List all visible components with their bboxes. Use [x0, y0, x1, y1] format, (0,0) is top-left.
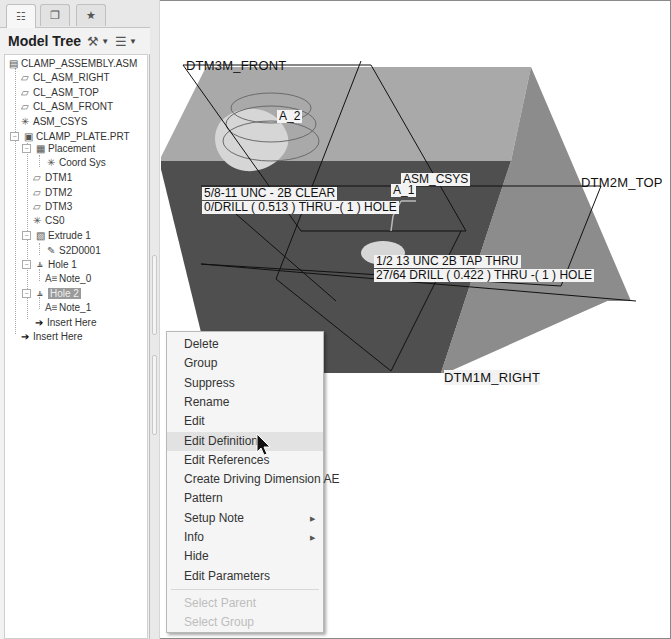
menu-item-label: Suppress: [184, 376, 235, 390]
tree-item-label: ASM_CSYS: [33, 116, 87, 127]
menu-item-select-group[interactable]: Select Group: [167, 613, 323, 632]
splitter-handle[interactable]: [152, 355, 157, 435]
datum-plane-icon: ▱: [19, 87, 31, 98]
model-tree-header: Model Tree ⚒ ▼ ☰ ▼: [0, 28, 150, 54]
tree-item-label: Note_0: [59, 273, 91, 284]
tree-item-asm-csys[interactable]: ✳ ASM_CSYS: [19, 114, 87, 128]
tree-item-placement[interactable]: − ▦ Placement: [22, 141, 95, 155]
tree-item-insert-here-part[interactable]: ➔ Insert Here: [33, 315, 96, 329]
navigator-panel: ☷ ❐ ★ Model Tree ⚒ ▼ ☰ ▼ ▤ CLAMP_ASSEMBL…: [0, 0, 150, 639]
menu-item-suppress[interactable]: Suppress: [167, 374, 323, 393]
datum-label-right[interactable]: DTM1M_RIGHT: [444, 370, 540, 385]
tree-item-dtm1[interactable]: ▱ DTM1: [31, 170, 72, 184]
hole-2-note-line-1[interactable]: 1/2 13 UNC 2B TAP THRU: [374, 255, 521, 268]
menu-item-hide[interactable]: Hide: [167, 547, 323, 566]
menu-item-edit-references[interactable]: Edit References: [167, 451, 323, 470]
note-icon: A≡: [45, 273, 57, 284]
collapse-toggle[interactable]: −: [22, 144, 31, 153]
menu-item-label: Select Group: [184, 615, 254, 629]
tree-item-note-0[interactable]: A≡ Note_0: [45, 271, 91, 285]
hole-1-note-line-2[interactable]: 0/DRILL ( 0.513 ) THRU -( 1 ) HOLE: [202, 201, 399, 214]
tree-item-label: Insert Here: [33, 331, 82, 342]
tree-item-hole-2[interactable]: − ⫨ Hole 2: [22, 286, 81, 300]
tree-item-label: CL_ASM_FRONT: [33, 101, 113, 112]
tree-connector: [15, 68, 16, 334]
menu-item-label: Create Driving Dimension AE: [184, 472, 339, 486]
favorites-icon: ★: [86, 9, 96, 22]
menu-item-label: Select Parent: [184, 596, 256, 610]
menu-item-create-driving-dimension-ae[interactable]: Create Driving Dimension AE: [167, 470, 323, 489]
csys-icon: ✳: [31, 215, 43, 226]
panel-splitter[interactable]: [150, 0, 160, 639]
note-icon: A≡: [45, 302, 57, 313]
collapse-toggle[interactable]: −: [22, 231, 31, 240]
menu-item-rename[interactable]: Rename: [167, 393, 323, 412]
submenu-arrow-icon: ▶: [310, 528, 315, 547]
assembly-icon: ▤: [7, 58, 19, 69]
hole-icon: ⫨: [34, 258, 46, 270]
hole-2-note-line-2[interactable]: 27/64 DRILL ( 0.422 ) THRU -( 1 ) HOLE: [374, 269, 594, 282]
collapse-toggle[interactable]: −: [10, 132, 19, 141]
part-icon: ▣: [22, 131, 34, 142]
menu-separator: [171, 589, 319, 590]
model-tree-icon: ☷: [16, 10, 26, 23]
model-tree: ▤ CLAMP_ASSEMBLY.ASM ▱ CL_ASM_RIGHT ▱ CL…: [4, 54, 148, 639]
mouse-cursor-icon: [256, 433, 272, 457]
tree-item-cl-asm-right[interactable]: ▱ CL_ASM_RIGHT: [19, 70, 110, 84]
tree-item-cl-asm-front[interactable]: ▱ CL_ASM_FRONT: [19, 99, 113, 113]
axis-label-a1[interactable]: A_1: [391, 184, 416, 197]
axis-label-a2[interactable]: A_2: [277, 110, 302, 123]
favorites-tab[interactable]: ★: [76, 4, 106, 26]
menu-item-setup-note[interactable]: Setup Note▶: [167, 509, 323, 528]
tree-item-label: Coord Sys: [59, 157, 106, 168]
menu-item-edit-parameters[interactable]: Edit Parameters: [167, 567, 323, 586]
sketch-icon: ✎: [45, 245, 57, 256]
tree-item-extrude-1[interactable]: − ▧ Extrude 1: [22, 228, 91, 242]
context-menu: DeleteGroupSuppressRenameEditEdit Defini…: [166, 331, 324, 633]
hole-1-note-line-1[interactable]: 5/8-11 UNC - 2B CLEAR: [202, 187, 337, 200]
tree-item-cl-asm-top[interactable]: ▱ CL_ASM_TOP: [19, 85, 99, 99]
menu-item-info[interactable]: Info▶: [167, 528, 323, 547]
tree-item-label: DTM1: [45, 172, 72, 183]
menu-item-label: Group: [184, 356, 217, 370]
tree-settings-icon[interactable]: ⚒: [87, 34, 99, 49]
tree-item-dtm3[interactable]: ▱ DTM3: [31, 199, 72, 213]
menu-item-group[interactable]: Group: [167, 354, 323, 373]
model-tree-tab[interactable]: ☷: [6, 4, 36, 28]
menu-item-pattern[interactable]: Pattern: [167, 489, 323, 508]
menu-item-label: Edit: [184, 414, 205, 428]
show-menu-icon[interactable]: ☰: [115, 34, 127, 49]
menu-item-label: Delete: [184, 337, 219, 351]
tree-item-label: Insert Here: [47, 317, 96, 328]
extrude-icon: ▧: [34, 230, 46, 241]
folder-browser-icon: ❐: [50, 9, 60, 22]
datum-label-top[interactable]: DTM2M_TOP: [581, 175, 663, 190]
chevron-down-icon[interactable]: ▼: [101, 37, 109, 46]
tree-item-label: DTM3: [45, 201, 72, 212]
collapse-toggle[interactable]: −: [22, 260, 31, 269]
placement-icon: ▦: [34, 143, 46, 154]
menu-item-label: Info: [184, 530, 204, 544]
datum-plane-icon: ▱: [19, 101, 31, 112]
collapse-toggle[interactable]: −: [22, 289, 31, 298]
tree-item-hole-1[interactable]: − ⫨ Hole 1: [22, 257, 77, 271]
tree-item-note-1[interactable]: A≡ Note_1: [45, 300, 91, 314]
hole-icon: ⫨: [34, 287, 46, 299]
insert-here-icon: ➔: [33, 317, 45, 328]
csys-icon: ✳: [19, 116, 31, 127]
splitter-handle[interactable]: [152, 255, 157, 335]
datum-label-front[interactable]: DTM3M_FRONT: [186, 58, 286, 73]
menu-item-edit-definition[interactable]: Edit Definition: [167, 432, 323, 451]
folder-browser-tab[interactable]: ❐: [40, 4, 70, 26]
menu-item-select-parent[interactable]: Select Parent: [167, 594, 323, 613]
tree-item-clamp-assembly[interactable]: ▤ CLAMP_ASSEMBLY.ASM: [7, 56, 137, 70]
tree-item-label: Note_1: [59, 302, 91, 313]
tree-item-cs0[interactable]: ✳ CS0: [31, 213, 64, 227]
tree-item-coord-sys[interactable]: ✳ Coord Sys: [45, 155, 106, 169]
tree-item-insert-here-asm[interactable]: ➔ Insert Here: [19, 329, 82, 343]
menu-item-edit[interactable]: Edit: [167, 412, 323, 431]
tree-item-dtm2[interactable]: ▱ DTM2: [31, 185, 72, 199]
chevron-down-icon[interactable]: ▼: [129, 37, 137, 46]
tree-item-s2d0001[interactable]: ✎ S2D0001: [45, 243, 101, 257]
menu-item-delete[interactable]: Delete: [167, 335, 323, 354]
